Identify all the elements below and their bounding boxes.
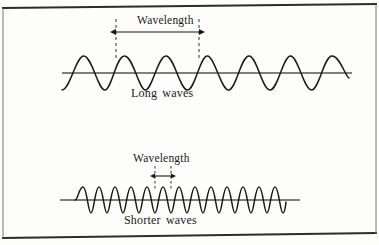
long-waves-panel [62,19,352,90]
wavelength-label-short: Wavelength [133,152,190,164]
wavelength-label-long: Wavelength [137,14,194,26]
diagram-canvas [0,0,379,245]
border-bottom-line [2,233,377,238]
caption-long-waves: Long waves [131,86,193,101]
caption-shorter-waves: Shorter waves [124,213,197,228]
shorter-waves-panel [60,166,300,213]
border-top-line [2,4,377,8]
wavelength-diagram: Wavelength Long waves Wavelength Shorter… [0,0,379,245]
